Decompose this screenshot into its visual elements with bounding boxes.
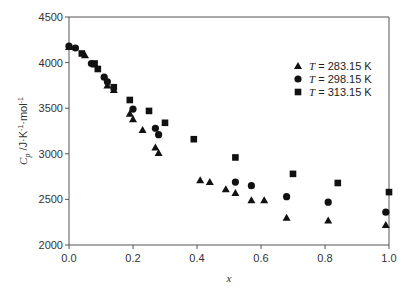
triangle-point (139, 126, 147, 133)
circle-point (104, 78, 111, 85)
y-ticks: 200025003000350040004500 (39, 11, 69, 251)
circle-point (155, 131, 162, 138)
x-tick-label: 0.0 (61, 252, 76, 264)
square-point (386, 189, 393, 196)
square-point (335, 180, 342, 187)
square-point (162, 119, 169, 126)
triangle-point (283, 214, 291, 221)
y-tick-label: 2000 (39, 239, 63, 251)
y-tick-label: 3000 (39, 148, 63, 160)
circle-point (283, 193, 290, 200)
triangle-point (324, 216, 332, 223)
square-point (191, 136, 198, 143)
x-ticks: 0.00.20.40.60.81.0 (61, 245, 396, 264)
x-tick-label: 0.6 (253, 252, 268, 264)
circle-point (232, 178, 239, 185)
legend-circle-icon (294, 75, 301, 82)
triangle-point (260, 196, 268, 203)
square-point (146, 108, 153, 115)
triangle-point (231, 189, 239, 196)
circle-point (129, 106, 136, 113)
y-tick-label: 2500 (39, 193, 63, 205)
legend: T = 283.15 KT = 298.15 KT = 313.15 K (294, 60, 372, 98)
triangle-point (222, 185, 230, 192)
legend-label: T = 298.15 K (309, 73, 372, 85)
square-point (79, 50, 86, 57)
triangle-point (247, 196, 255, 203)
circle-point (325, 199, 332, 206)
circle-point (65, 43, 72, 50)
y-tick-label: 3500 (39, 102, 63, 114)
legend-square-icon (295, 89, 302, 96)
square-point (127, 97, 134, 104)
legend-label: T = 283.15 K (309, 60, 372, 72)
circle-point (248, 182, 255, 189)
square-point (232, 154, 239, 161)
x-tick-label: 1.0 (381, 252, 396, 264)
circle-point (152, 125, 159, 132)
scatter-chart: 200025003000350040004500 0.00.20.40.60.8… (0, 0, 412, 297)
y-axis-label: Cp /J·K-1·mol-1 (17, 97, 32, 165)
legend-label: T = 313.15 K (309, 86, 372, 98)
square-point (111, 84, 118, 91)
circle-point (382, 209, 389, 216)
square-point (95, 66, 102, 73)
x-tick-label: 0.4 (189, 252, 204, 264)
triangle-point (196, 176, 204, 183)
y-tick-label: 4000 (39, 57, 63, 69)
x-axis-label: x (226, 272, 232, 284)
triangle-point (206, 178, 214, 185)
legend-triangle-icon (294, 62, 302, 69)
y-tick-label: 4500 (39, 11, 63, 23)
x-tick-label: 0.8 (317, 252, 332, 264)
x-tick-label: 0.2 (125, 252, 140, 264)
plot-frame (69, 17, 389, 245)
square-point (290, 171, 297, 178)
circle-point (72, 44, 79, 51)
triangle-point (151, 143, 159, 150)
